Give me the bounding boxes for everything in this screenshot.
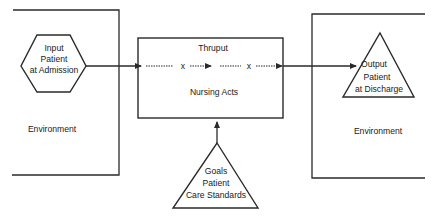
output-line-2: Patient [364,72,391,82]
environment-right: Environment [312,14,425,178]
goals-line-1: Goals [205,166,227,176]
thruput-body: Nursing Acts [190,87,238,97]
input-line-3: at Admission [30,65,79,75]
output-node: Output Patient at Discharge [343,33,414,97]
output-line-1: Output [361,59,387,69]
environment-right-border [312,14,425,178]
input-line-2: Patient [41,54,68,64]
flow-marker-x: x [247,61,252,71]
goals-node: Goals Patient Care Standards [173,143,258,208]
environment-left-label: Environment [28,124,77,134]
process-flow: x x [146,61,282,71]
thruput-node: Thruput Nursing Acts [138,38,283,118]
output-line-3: at Discharge [355,84,403,94]
flow-marker-x: x [181,61,186,71]
input-node: Input Patient at Admission [21,35,86,92]
goals-line-3: Care Standards [186,190,246,200]
goals-line-2: Patient [203,178,230,188]
thruput-title: Thruput [198,43,228,53]
environment-right-label: Environment [354,126,403,136]
input-line-1: Input [44,43,64,53]
nursing-systems-diagram: Environment Environment Input Patient at… [0,0,440,216]
